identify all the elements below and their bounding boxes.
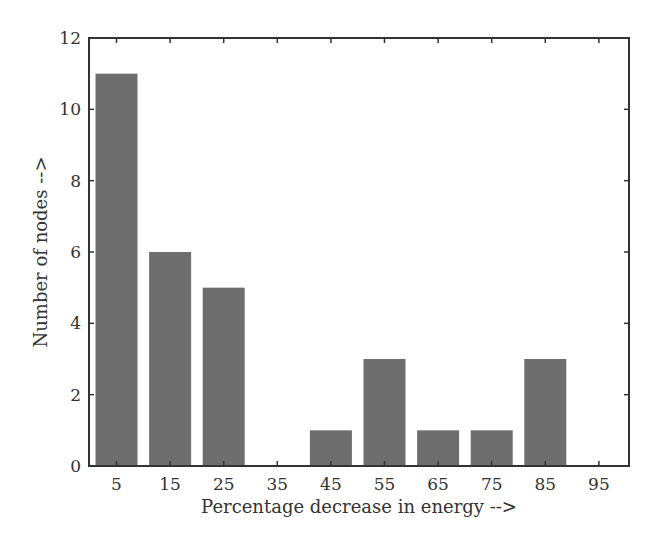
x-tick-label: 25 bbox=[213, 474, 235, 494]
bar-85 bbox=[524, 359, 566, 466]
bar-5 bbox=[96, 74, 138, 466]
bar-chart: 5152535455565758595 024681012 Percentage… bbox=[0, 0, 664, 540]
bars bbox=[96, 74, 567, 466]
y-tick-label: 6 bbox=[70, 242, 81, 262]
x-tick-label: 95 bbox=[588, 474, 610, 494]
y-tick-label: 12 bbox=[59, 28, 81, 48]
bar-65 bbox=[417, 430, 459, 466]
x-tick-label: 35 bbox=[266, 474, 288, 494]
y-axis-label: Number of nodes --> bbox=[30, 157, 51, 348]
bar-25 bbox=[203, 288, 245, 466]
y-tick-label: 10 bbox=[59, 99, 81, 119]
bar-55 bbox=[364, 359, 406, 466]
x-tick-label: 45 bbox=[320, 474, 342, 494]
x-tick-label: 5 bbox=[111, 474, 122, 494]
bar-15 bbox=[149, 252, 191, 466]
bar-75 bbox=[471, 430, 513, 466]
x-tick-label: 65 bbox=[427, 474, 449, 494]
y-tick-label: 4 bbox=[70, 313, 81, 333]
x-tick-label: 85 bbox=[534, 474, 556, 494]
x-axis-label: Percentage decrease in energy --> bbox=[201, 496, 517, 517]
y-tick-label: 8 bbox=[70, 171, 81, 191]
y-tick-label: 2 bbox=[70, 385, 81, 405]
x-tick-label: 15 bbox=[159, 474, 181, 494]
x-tick-label: 55 bbox=[374, 474, 396, 494]
bar-45 bbox=[310, 430, 352, 466]
y-tick-label: 0 bbox=[70, 456, 81, 476]
x-tick-label: 75 bbox=[481, 474, 503, 494]
